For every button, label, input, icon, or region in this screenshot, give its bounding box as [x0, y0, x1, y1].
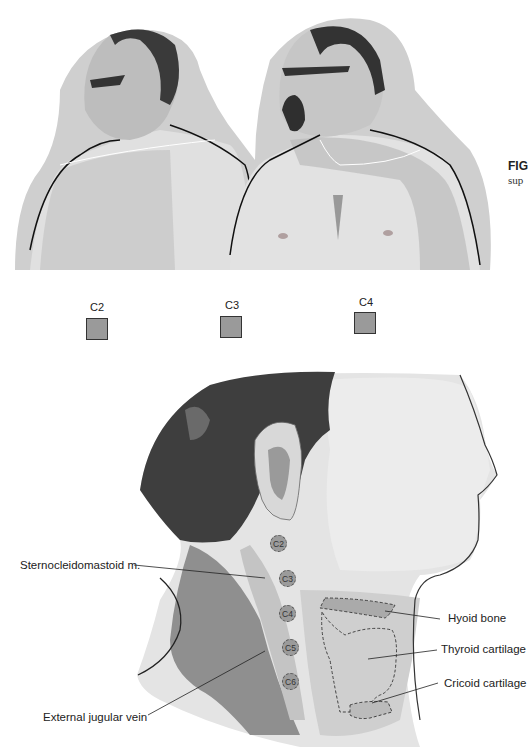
- label-sternocleidomastoid: Sternocleidomastoid m.: [20, 559, 140, 571]
- label-thyroid-cartilage: Thyroid cartilage: [441, 643, 526, 655]
- label-cricoid-cartilage: Cricoid cartilage: [444, 677, 526, 689]
- segment-marker-c6: C6: [282, 673, 299, 690]
- segment-marker-c5: C5: [282, 639, 299, 656]
- segment-marker-c2: C2: [270, 535, 287, 552]
- segment-marker-c3: C3: [279, 570, 296, 587]
- label-external-jugular-vein: External jugular vein: [43, 711, 147, 723]
- segment-marker-c4: C4: [279, 605, 296, 622]
- label-hyoid-bone: Hyoid bone: [448, 612, 506, 624]
